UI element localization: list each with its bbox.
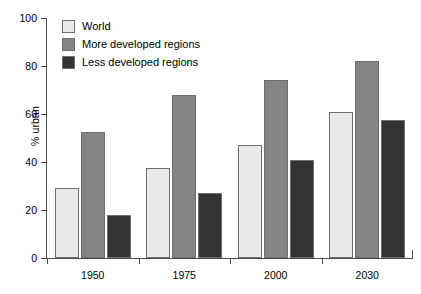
y-tick-label: 100	[11, 13, 37, 24]
bar	[146, 168, 170, 258]
x-tick-label: 2000	[246, 269, 306, 281]
legend-item: Less developed regions	[62, 54, 200, 71]
x-tick-mark	[139, 259, 140, 264]
y-tick-label: 60	[11, 109, 37, 120]
y-tick-mark	[41, 258, 46, 259]
bar	[238, 145, 262, 258]
legend-label: World	[82, 21, 111, 32]
x-tick-label: 1975	[154, 269, 214, 281]
legend-item: More developed regions	[62, 36, 200, 53]
bar	[172, 95, 196, 258]
y-tick-label: 0	[11, 253, 37, 264]
y-axis-title: % urban	[29, 86, 41, 166]
bar	[198, 193, 222, 258]
y-tick-mark	[41, 66, 46, 67]
x-tick-mark	[322, 259, 323, 264]
legend-item: World	[62, 18, 200, 35]
x-tick-label: 2030	[337, 269, 397, 281]
y-tick-mark	[41, 210, 46, 211]
x-tick-label: 1950	[63, 269, 123, 281]
bar-group	[230, 18, 322, 258]
x-tick-mark	[47, 259, 48, 264]
bar	[55, 188, 79, 258]
y-tick-label: 20	[11, 205, 37, 216]
bar-chart: % urban 020406080100 1950197520002030 Wo…	[0, 0, 421, 294]
bar	[329, 112, 353, 258]
legend-label: More developed regions	[82, 39, 200, 50]
y-tick-mark	[41, 162, 46, 163]
legend-swatch	[62, 56, 75, 69]
y-tick-mark	[41, 114, 46, 115]
chart-legend: WorldMore developed regionsLess develope…	[62, 18, 200, 72]
bar	[264, 80, 288, 258]
x-tick-mark	[230, 259, 231, 264]
bar	[355, 61, 379, 258]
bar	[107, 215, 131, 258]
bar-group	[322, 18, 414, 258]
y-tick-label: 80	[11, 61, 37, 72]
legend-swatch	[62, 20, 75, 33]
legend-label: Less developed regions	[82, 57, 198, 68]
bar	[81, 132, 105, 258]
legend-swatch	[62, 38, 75, 51]
y-tick-label: 40	[11, 157, 37, 168]
bar	[290, 160, 314, 258]
y-tick-mark	[41, 18, 46, 19]
bar	[381, 120, 405, 258]
